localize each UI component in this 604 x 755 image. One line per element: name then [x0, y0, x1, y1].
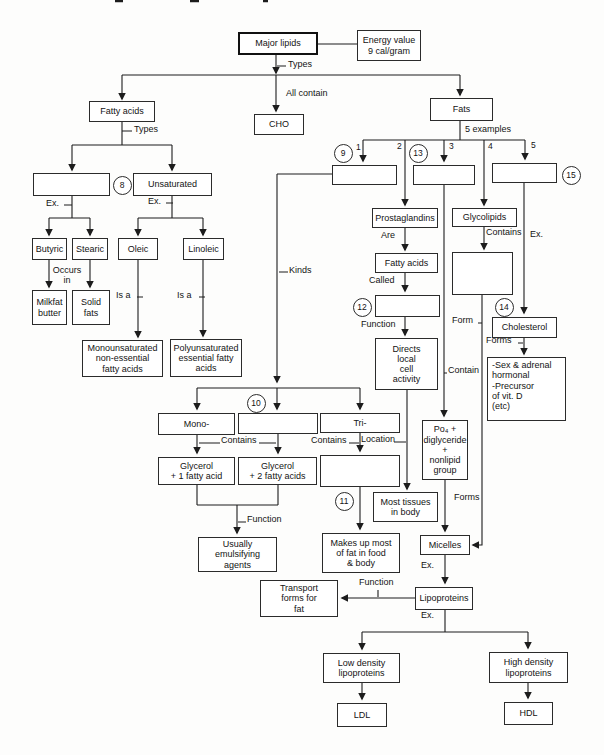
- branch-number-1: 1: [356, 142, 361, 152]
- node-milkfat-butter: Milkfat butter: [32, 290, 67, 325]
- branch-number-5: 5: [531, 140, 536, 150]
- node-usually-emulsifying: Usually emulsifying agents: [198, 537, 277, 572]
- node-solid-fats: Solid fats: [72, 290, 110, 325]
- node-mono: Mono-: [158, 413, 235, 435]
- edge-label-location: Location: [361, 435, 395, 445]
- node-lipoproteins: Lipoproteins: [415, 587, 473, 610]
- node-glycolipids: Glycolipids: [452, 208, 517, 227]
- node-tri: Tri-: [320, 413, 400, 433]
- node-fats: Fats: [430, 98, 493, 121]
- edge-label-function-lipo: Function: [359, 578, 394, 588]
- edge-label-are: Are: [381, 231, 395, 241]
- node-fatty-acids: Fatty acids: [89, 101, 155, 122]
- node-tri-contents-blank: [320, 455, 400, 487]
- edge-label-form: Form: [452, 316, 473, 326]
- circled-number-11: 11: [335, 492, 354, 511]
- node-butyric: Butyric: [32, 238, 67, 260]
- node-po4-group: Po₄ + diglyceride + nonlipid group: [422, 420, 468, 480]
- node-prostaglandins: Prostaglandins: [372, 208, 438, 228]
- node-major-lipids: Major lipids: [238, 32, 318, 55]
- edge-label-contains-1: Contains: [221, 436, 257, 446]
- edge-label-is-a-left: Is a: [116, 291, 131, 301]
- node-glycerol-1: Glycerol + 1 fatty acid: [158, 457, 235, 485]
- edge-label-ex-right: Ex.: [148, 197, 161, 207]
- node-di-blank: [238, 413, 318, 434]
- edge-label-forms-po4: Forms: [454, 493, 480, 503]
- circled-number-12: 12: [353, 298, 372, 317]
- lipids-flowchart: Major lipidsEnergy value 9 cal/gramCHOFa…: [0, 0, 604, 755]
- branch-number-2: 2: [397, 141, 402, 151]
- node-high-density: High density lipoproteins: [489, 652, 568, 683]
- node-cho: CHO: [254, 114, 304, 135]
- circled-number-15: 15: [562, 166, 581, 185]
- node-example1-blank: [332, 165, 397, 185]
- edge-label-contains-2: Contains: [311, 436, 347, 446]
- node-transport-forms: Transport forms for fat: [260, 580, 338, 617]
- node-monounsaturated: Monounsaturated non-essential fatty acid…: [82, 340, 163, 377]
- circled-number-9: 9: [334, 144, 353, 163]
- branch-number-3: 3: [449, 141, 454, 151]
- node-example5-blank: [492, 163, 557, 183]
- edge-label-ex-lipo: Ex.: [421, 611, 434, 621]
- node-fatty-acids-called: Fatty acids: [375, 253, 438, 273]
- node-most-tissues: Most tissues in body: [373, 492, 438, 522]
- edge-label-ex-left: Ex.: [46, 199, 59, 209]
- node-makes-up-most: Makes up most of fat in food & body: [322, 533, 400, 573]
- edge-label-types-top: Types: [288, 60, 312, 70]
- edge-label-ex-chol: Ex.: [530, 230, 543, 240]
- edge-label-is-a-right: Is a: [177, 291, 192, 301]
- edge-label-occurs-in: Occurs in: [48, 266, 86, 286]
- edge-label-called: Called: [369, 276, 395, 286]
- edge-label-function-mid: Function: [361, 320, 396, 330]
- node-directs-local: Directs local cell activity: [375, 338, 438, 390]
- node-stearic: Stearic: [72, 238, 108, 260]
- node-hdl: HDL: [504, 702, 553, 725]
- node-energy-value: Energy value 9 cal/gram: [357, 30, 421, 61]
- circled-number-14: 14: [495, 298, 514, 317]
- node-called-blank: [375, 295, 440, 317]
- node-linoleic: Linoleic: [183, 238, 224, 260]
- node-low-density: Low density lipoproteins: [323, 653, 400, 683]
- edge-label-contains-glyco: Contains: [486, 228, 522, 238]
- node-micelles: Micelles: [420, 535, 470, 555]
- edge-label-kinds: Kinds: [289, 266, 312, 276]
- node-saturated-blank: [33, 173, 110, 196]
- circled-number-13: 13: [409, 144, 428, 163]
- node-glycolipid-contents-blank: [452, 252, 513, 295]
- node-unsaturated: Unsaturated: [133, 173, 212, 196]
- circled-number-8: 8: [113, 176, 132, 195]
- edge-label-function-emuls: Function: [247, 515, 282, 525]
- edge-label-contain: Contain: [448, 366, 479, 376]
- edge-label-ex-micelles: Ex.: [421, 561, 434, 571]
- node-polyunsaturated: Polyunsaturated essential fatty acids: [170, 339, 242, 377]
- edge-label-forms-chol: Forms: [486, 336, 512, 346]
- edge-label-types-fa: Types: [134, 125, 158, 135]
- edge-label-five-examples: 5 examples: [465, 125, 511, 135]
- node-oleic: Oleic: [118, 238, 158, 260]
- branch-number-4: 4: [488, 141, 493, 151]
- node-ldl: LDL: [337, 703, 387, 727]
- node-cholesterol-forms: -Sex & adrenal hormonal -Precursor of vi…: [487, 357, 566, 421]
- node-example3-blank: [413, 165, 475, 185]
- node-glycerol-2: Glycerol + 2 fatty acids: [238, 457, 317, 485]
- edge-label-all-contain: All contain: [286, 89, 328, 99]
- circled-number-10: 10: [247, 394, 266, 413]
